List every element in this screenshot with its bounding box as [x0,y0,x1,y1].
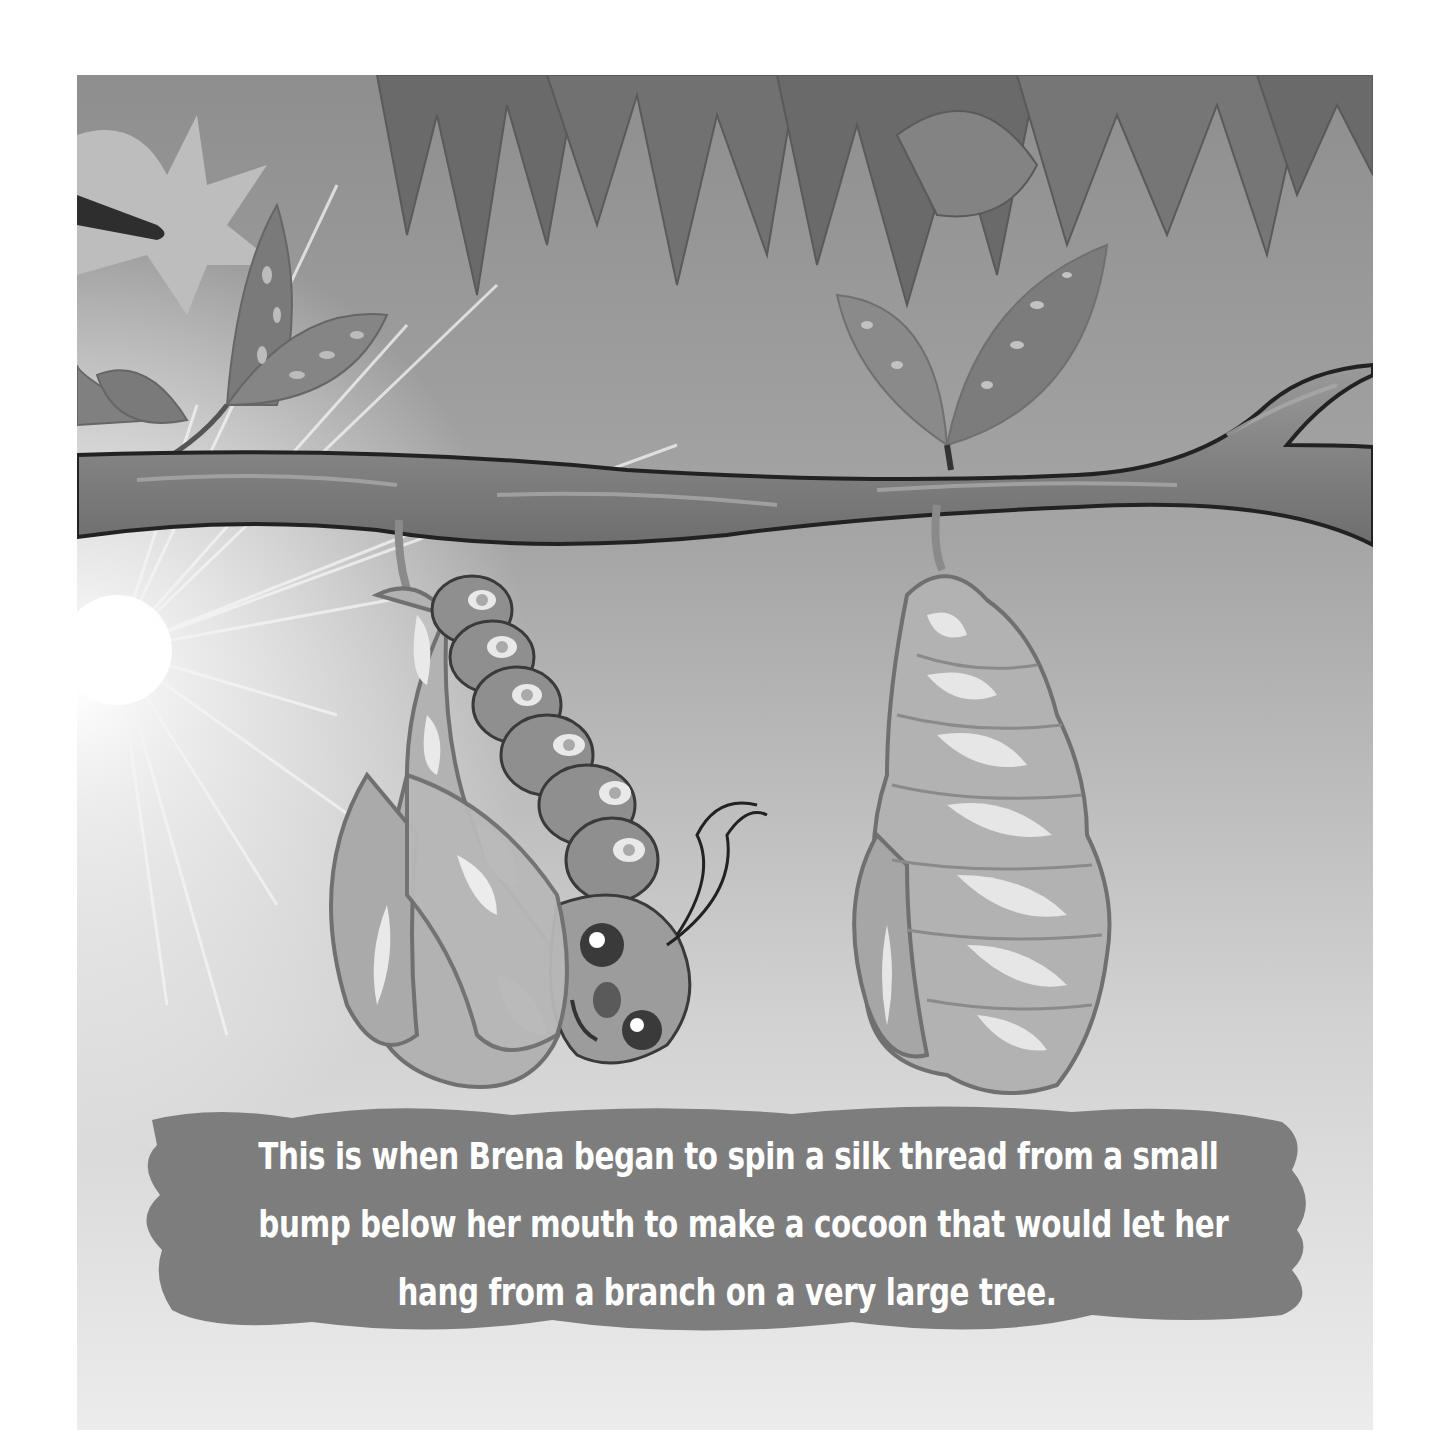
caption-line-2: bump below her mouth to make a cocoon th… [258,1190,1195,1258]
storybook-page: This is when Brena began to spin a silk … [77,75,1373,1430]
caption-box: This is when Brena began to spin a silk … [132,1100,1322,1340]
caption-line-1: This is when Brena began to spin a silk … [258,1122,1195,1190]
caption-line-3: hang from a branch on a very large tree. [258,1258,1195,1326]
caption-text: This is when Brena began to spin a silk … [258,1122,1195,1326]
